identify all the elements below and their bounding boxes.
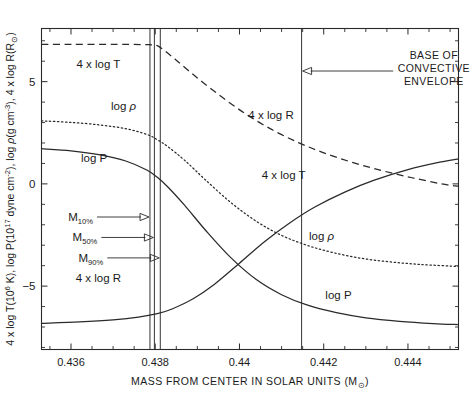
stellar-structure-chart: 0.4360.4380.440.4420.444 50−5 4 x log T4… [0,0,474,399]
curve-label-log-: log ρ [309,230,335,242]
curve-label-log-p: log P [325,289,352,301]
y-tick-label: 0 [29,178,35,190]
curve-label-4-x-log-r: 4 x log R [248,109,293,121]
x-tick-label: 0.442 [310,356,338,368]
x-tick-label: 0.444 [394,356,422,368]
figure-container: 0.4360.4380.440.4420.444 50−5 4 x log T4… [0,0,474,399]
curve-label-4-x-log-t: 4 x log T [76,58,120,70]
x-tick-label: 0.44 [229,356,250,368]
chart-background [0,0,474,399]
curve-label-4-x-log-t: 4 x log T [262,169,306,181]
x-tick-label: 0.438 [141,356,169,368]
y-tick-label: 5 [29,76,35,88]
x-tick-label: 0.436 [57,356,85,368]
y-tick-label: −5 [22,280,35,292]
curve-label-log-: log ρ [111,100,137,112]
curve-label-log-p: log P [81,152,108,164]
curve-label-4-x-log-r: 4 x log R [76,272,121,284]
